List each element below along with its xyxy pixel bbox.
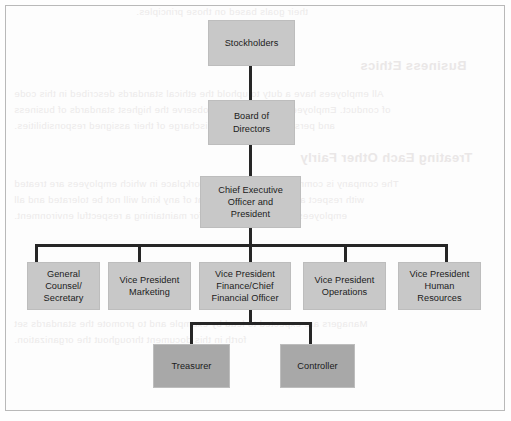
connector-drop-vp-hr <box>445 244 448 262</box>
node-general-counsel-line3: Secretary <box>42 292 86 304</box>
node-vp-finance-line2: Finance/Chief <box>209 280 280 292</box>
node-vp-operations-line2: Operations <box>313 286 377 298</box>
node-ceo-line3: President <box>216 208 285 220</box>
node-treasurer-label: Treasurer <box>170 360 214 372</box>
connector-bus-vps <box>35 244 448 247</box>
connector-stockholders-board <box>249 64 252 100</box>
node-board-of-directors[interactable]: Board of Directors <box>208 100 295 145</box>
connector-ceo-stem <box>249 227 252 245</box>
figure-page: their goals based on those principles. B… <box>0 0 511 421</box>
connector-drop-vp-finance <box>249 244 252 262</box>
node-vice-president-human-resources[interactable]: Vice President Human Resources <box>398 262 481 310</box>
node-general-counsel-line1: General <box>42 268 86 280</box>
node-controller[interactable]: Controller <box>280 344 355 388</box>
node-vice-president-marketing[interactable]: Vice President Marketing <box>108 262 191 310</box>
node-vp-marketing-line1: Vice President <box>118 274 182 286</box>
node-vp-hr-line3: Resources <box>408 292 472 304</box>
node-chief-executive-officer[interactable]: Chief Executive Officer and President <box>200 176 301 228</box>
node-vp-finance-line3: Financial Officer <box>209 292 280 304</box>
connector-drop-vp-marketing <box>138 244 141 262</box>
connector-drop-treasurer <box>190 322 193 345</box>
connector-drop-vp-operations <box>344 244 347 262</box>
node-vice-president-finance[interactable]: Vice President Finance/Chief Financial O… <box>199 262 291 310</box>
node-general-counsel-line2: Counsel/ <box>42 280 86 292</box>
node-board-line2: Directors <box>231 123 272 135</box>
connector-bus-treasury <box>190 322 312 325</box>
node-vp-finance-line1: Vice President <box>209 268 280 280</box>
node-controller-label: Controller <box>295 360 339 372</box>
node-ceo-line2: Officer and <box>216 196 285 208</box>
node-board-line1: Board of <box>231 110 272 122</box>
node-vp-operations-line1: Vice President <box>313 274 377 286</box>
node-vp-hr-line1: Vice President <box>408 268 472 280</box>
node-stockholders[interactable]: Stockholders <box>208 20 295 66</box>
node-vp-marketing-line2: Marketing <box>118 286 182 298</box>
connector-board-ceo <box>249 144 252 176</box>
node-treasurer[interactable]: Treasurer <box>153 344 230 388</box>
node-stockholders-label: Stockholders <box>223 37 281 49</box>
node-ceo-line1: Chief Executive <box>216 184 285 196</box>
connector-drop-controller <box>309 322 312 345</box>
node-general-counsel-secretary[interactable]: General Counsel/ Secretary <box>27 262 100 310</box>
node-vp-hr-line2: Human <box>408 280 472 292</box>
node-vice-president-operations[interactable]: Vice President Operations <box>303 262 386 310</box>
connector-drop-general-counsel <box>35 244 38 262</box>
